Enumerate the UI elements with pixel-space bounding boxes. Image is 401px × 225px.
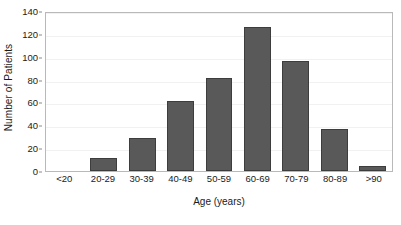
- bar: [90, 158, 117, 171]
- y-tick-mark: [39, 126, 42, 127]
- x-tick-label: 40-49: [161, 174, 200, 184]
- x-tick-label: 80-89: [316, 174, 355, 184]
- bar: [321, 129, 348, 171]
- y-tick-label: 20: [27, 144, 38, 154]
- y-tick-label: 140: [22, 7, 38, 17]
- x-axis-title: Age (years): [45, 196, 393, 207]
- y-tick-mark: [39, 80, 42, 81]
- bar-slot: [277, 13, 315, 171]
- bar-slot: [84, 13, 122, 171]
- bar-chart-figure: Number of Patients 020406080100120140 <2…: [0, 0, 401, 225]
- x-tick-label: 60-69: [238, 174, 277, 184]
- y-tick-mark: [39, 172, 42, 173]
- y-tick-mark: [39, 103, 42, 104]
- bar-slot: [354, 13, 392, 171]
- bar: [206, 78, 233, 171]
- y-tick-label: 100: [22, 53, 38, 63]
- bar-slot: [123, 13, 161, 171]
- x-tick-label: 30-39: [122, 174, 161, 184]
- y-axis-tick-labels: 020406080100120140: [16, 12, 42, 172]
- bar-slot: [161, 13, 199, 171]
- y-tick-label: 60: [27, 99, 38, 109]
- bar: [359, 166, 386, 171]
- bar-slot: [200, 13, 238, 171]
- y-tick-label: 80: [27, 76, 38, 86]
- bar: [167, 101, 194, 171]
- y-tick-mark: [39, 34, 42, 35]
- y-tick-label: 40: [27, 122, 38, 132]
- y-tick-mark: [39, 57, 42, 58]
- y-tick-mark: [39, 12, 42, 13]
- x-tick-label: 20-29: [84, 174, 123, 184]
- bar: [129, 138, 156, 171]
- x-tick-label: 50-59: [200, 174, 239, 184]
- y-axis-title-text: Number of Patients: [4, 44, 15, 131]
- y-tick-mark: [39, 149, 42, 150]
- x-tick-label: <20: [45, 174, 84, 184]
- bar: [282, 61, 309, 171]
- plot-area: [45, 12, 393, 172]
- bar-slot: [46, 13, 84, 171]
- bar-slot: [315, 13, 353, 171]
- y-tick-label: 0: [33, 167, 38, 177]
- bar: [244, 27, 271, 171]
- x-tick-label: >90: [354, 174, 393, 184]
- bar-series: [46, 13, 392, 171]
- x-axis-tick-labels: <2020-2930-3940-4950-5960-6970-7980-89>9…: [45, 174, 393, 184]
- y-tick-label: 120: [22, 30, 38, 40]
- x-tick-label: 70-79: [277, 174, 316, 184]
- bar-slot: [238, 13, 276, 171]
